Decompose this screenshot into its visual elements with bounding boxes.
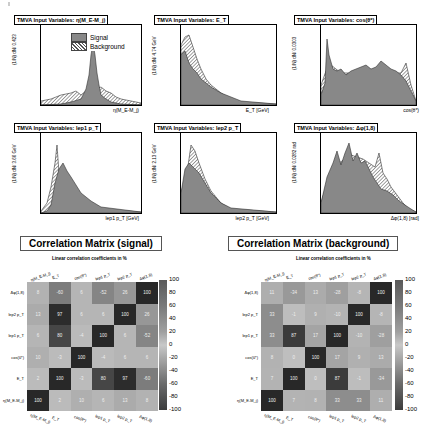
matrix-cell: -28 xyxy=(326,282,348,304)
y-axis-label: (1/N) dN/ 0.0303 xyxy=(292,37,297,70)
histogram-panel-4: TMVA Input Variables: lep1 p_T (1/N) dN/… xyxy=(10,123,145,223)
matrix-cell: -34 xyxy=(370,368,392,390)
col-label-top: cos(θ*) xyxy=(307,272,321,281)
matrix-cell: -1 xyxy=(348,368,370,390)
histogram-panel-2: TMVA Input Variables: E_T (1/N) dN/ 4.74… xyxy=(150,15,285,115)
colorbar-tick: -20 xyxy=(405,354,414,360)
panel-title: TMVA Input Variables: cos(θ*) xyxy=(294,15,377,25)
y-axis-label: (1/N) dN/ 0.0282 rad xyxy=(292,142,297,183)
col-label-bottom: η(M_E-M_j) xyxy=(30,413,51,425)
plot-area xyxy=(320,24,417,106)
matrix-cell: 6 xyxy=(27,325,49,347)
matrix-cell: -8 xyxy=(370,304,392,326)
x-axis-label: η(M_E-M_j) xyxy=(113,107,139,113)
colorbar-tick: 0 xyxy=(169,341,172,347)
background-colorbar xyxy=(395,280,403,410)
matrix-cell: 7 xyxy=(283,390,305,412)
colorbar-tick: 60 xyxy=(405,302,412,308)
colorbar-tick: -40 xyxy=(169,367,178,373)
matrix-cell: 100 xyxy=(261,390,283,412)
signal-matrix-title: Correlation Matrix (signal) xyxy=(20,236,162,251)
legend-background: Background xyxy=(71,42,125,51)
colorbar-tick: 80 xyxy=(405,289,412,295)
colorbar-tick: -100 xyxy=(169,406,181,412)
col-label-bottom: Δφ(1,8) xyxy=(373,414,387,423)
matrix-cell: 10 xyxy=(27,347,49,369)
y-axis-label: (1/N) dN/ 4.74 GeV xyxy=(152,36,157,75)
colorbar-tick: 20 xyxy=(405,328,412,334)
x-axis-label: lep1 p_T [GeV] xyxy=(105,215,139,221)
matrix-cell: -4 xyxy=(92,347,114,369)
matrix-cell: 33 xyxy=(348,390,370,412)
matrix-cell: 7 xyxy=(261,368,283,390)
col-label-top: E_T xyxy=(51,273,60,280)
x-axis-label: Δφ(1,8) [rad] xyxy=(391,215,419,221)
colorbar-tick: 40 xyxy=(405,315,412,321)
row-label: lep2 p_T xyxy=(228,312,258,317)
matrix-cell: -10 xyxy=(326,304,348,326)
matrix-cell: -1 xyxy=(283,304,305,326)
matrix-cell: 17 xyxy=(305,325,327,347)
legend: Signal Background xyxy=(71,33,125,51)
matrix-cell: 100 xyxy=(114,304,136,326)
colorbar-tick: 80 xyxy=(169,289,176,295)
colorbar-tick: 40 xyxy=(169,315,176,321)
y-axis-label: (1/N) dN/ 3.66 GeV xyxy=(12,144,17,183)
signal-swatch xyxy=(71,33,87,42)
colorbar-tick: -40 xyxy=(405,367,414,373)
matrix-cell: 6 xyxy=(71,282,93,304)
matrix-cell: 100 xyxy=(136,282,158,304)
row-label: Δφ(1,8) xyxy=(228,290,258,295)
matrix-cell: 6 xyxy=(114,347,136,369)
matrix-cell: 26 xyxy=(136,304,158,326)
histogram-panel-6: TMVA Input Variables: Δφ(1,8) (1/N) dN/ … xyxy=(290,123,425,223)
matrix-cell: 100 xyxy=(27,390,49,412)
col-label-bottom: lep2 p_T xyxy=(117,413,133,423)
matrix-cell: -34 xyxy=(283,282,305,304)
matrix-cell: -52 xyxy=(136,325,158,347)
matrix-cell: 2 xyxy=(27,368,49,390)
matrix-cell: 8 xyxy=(27,282,49,304)
matrix-cell: 6 xyxy=(114,325,136,347)
matrix-cell: -10 xyxy=(348,325,370,347)
colorbar-tick: 60 xyxy=(169,302,176,308)
plot-area xyxy=(40,132,142,214)
matrix-cell: -28 xyxy=(370,325,392,347)
matrix-cell: 8 xyxy=(305,390,327,412)
y-axis-label: (1/N) dN/ 0.423 xyxy=(12,34,17,65)
row-label: Δφ(1,8) xyxy=(0,290,24,295)
panel-title: TMVA Input Variables: lep2 p_T xyxy=(154,123,241,133)
panel-title: TMVA Input Variables: lep1 p_T xyxy=(14,123,101,133)
col-label-bottom: cos(θ*) xyxy=(73,414,87,423)
col-label-bottom: η(M_E-M_j) xyxy=(264,413,285,425)
matrix-cell: 17 xyxy=(326,347,348,369)
panel-title: TMVA Input Variables: E_T xyxy=(154,15,229,25)
panel-title: TMVA Input Variables: Δφ(1,8) xyxy=(294,123,378,133)
matrix-cell: 80 xyxy=(49,325,71,347)
matrix-cell: 13 xyxy=(27,304,49,326)
col-label-bottom: lep1 p_T xyxy=(95,413,111,423)
matrix-cell: -8 xyxy=(348,282,370,304)
matrix-cell: -3 xyxy=(71,368,93,390)
matrix-cell: 8 xyxy=(261,347,283,369)
plot-area: Signal Background xyxy=(40,24,142,106)
matrix-cell: 100 xyxy=(49,368,71,390)
colorbar-tick: -80 xyxy=(405,393,414,399)
x-axis-label: cos(θ*) xyxy=(403,107,419,113)
legend-signal: Signal xyxy=(71,33,125,42)
row-label: cos(θ*) xyxy=(0,355,24,360)
matrix-cell: 100 xyxy=(326,325,348,347)
background-swatch xyxy=(71,42,87,51)
matrix-cell: -60 xyxy=(49,282,71,304)
colorbar-tick: -100 xyxy=(405,406,417,412)
col-label-bottom: lep2 p_T xyxy=(351,413,367,423)
signal-correlation-grid: 8-606-522610013976610026680-41006-5210-3… xyxy=(27,282,158,411)
colorbar-tick: -80 xyxy=(169,393,178,399)
panel-title: TMVA Input Variables: η(M_E-M_j) xyxy=(14,15,108,25)
row-label: η(M_E-M_j) xyxy=(0,398,24,403)
col-label-top: E_T xyxy=(285,273,294,280)
matrix-cell: 100 xyxy=(283,368,305,390)
col-label-top: η(M_E-M_j) xyxy=(30,271,51,283)
matrix-cell: 13 xyxy=(305,282,327,304)
col-label-bottom: Δφ(1,8) xyxy=(139,414,153,423)
